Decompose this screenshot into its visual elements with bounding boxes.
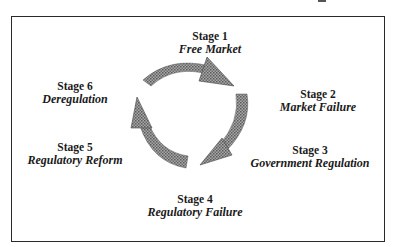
stage-5: Stage 5 Regulatory Reform xyxy=(20,141,130,167)
stage-6-name: Deregulation xyxy=(30,93,120,106)
stage-2-name: Market Failure xyxy=(268,101,368,114)
stage-4: Stage 4 Regulatory Failure xyxy=(135,193,255,219)
arrow-left xyxy=(131,97,188,168)
stage-6: Stage 6 Deregulation xyxy=(30,80,120,106)
stage-2: Stage 2 Market Failure xyxy=(268,88,368,114)
stage-3: Stage 3 Government Regulation xyxy=(235,144,385,170)
stage-1: Stage 1 Free Market xyxy=(155,30,265,56)
arrow-top xyxy=(143,57,234,86)
stage-5-name: Regulatory Reform xyxy=(20,154,130,167)
stage-4-name: Regulatory Failure xyxy=(135,206,255,219)
stage-1-name: Free Market xyxy=(155,43,265,56)
stage-3-name: Government Regulation xyxy=(235,157,385,170)
